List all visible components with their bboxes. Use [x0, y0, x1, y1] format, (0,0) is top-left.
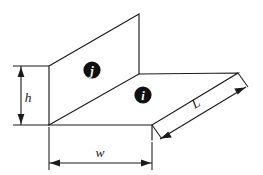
h-arrow-down: [18, 114, 25, 124]
L-dimension-label: L: [188, 95, 203, 112]
figure-container: h w L j i: [0, 0, 263, 175]
w-dimension-label: w: [95, 145, 104, 160]
h-dimension-label: h: [25, 90, 32, 105]
h-arrow-up: [18, 67, 25, 77]
L-extension-line-far: [238, 73, 248, 87]
node-marker-i-label: i: [141, 89, 145, 103]
w-arrow-right: [141, 160, 151, 167]
w-arrow-left: [50, 160, 60, 167]
bracket-diagram: h w L j i: [0, 0, 263, 175]
L-extension-line-near: [152, 125, 162, 139]
